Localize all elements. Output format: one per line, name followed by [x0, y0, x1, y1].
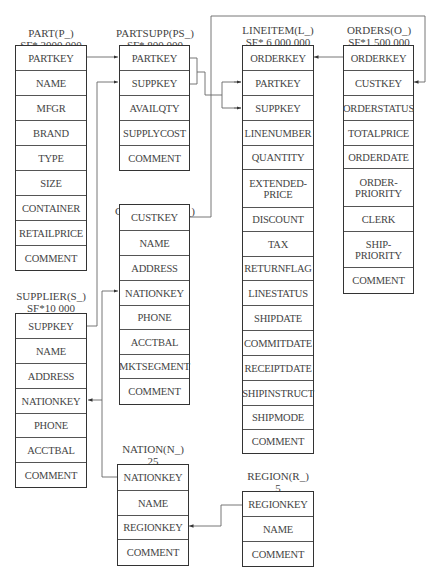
column-comment: COMMENT — [118, 540, 188, 565]
column-shipmode: SHIPMODE — [243, 406, 313, 430]
column-linenumber: LINENUMBER — [243, 121, 313, 146]
column-comment: COMMENT — [120, 379, 189, 404]
column-comment: COMMENT — [344, 268, 413, 293]
column-name: NAME — [243, 517, 313, 542]
column-custkey: CUSTKEY — [344, 71, 413, 96]
table-nation: NATIONKEY NAME REGIONKEY COMMENT — [117, 464, 189, 566]
column-comment: COMMENT — [16, 246, 86, 270]
table-supplier: SUPPKEY NAME ADDRESS NATIONKEY PHONE ACC… — [15, 313, 87, 488]
column-mfgr: MFGR — [16, 96, 86, 121]
column-availqty: AVAILQTY — [120, 96, 189, 121]
table-name: LINEITEM(L_) — [232, 24, 324, 36]
link-region-nation — [189, 505, 242, 526]
column-comment: COMMENT — [16, 463, 86, 487]
column-address: ADDRESS — [16, 364, 86, 389]
column-suppkey: SUPPKEY — [16, 314, 86, 339]
table-part: PARTKEY NAME MFGR BRAND TYPE SIZE CONTAI… — [15, 45, 87, 271]
column-acctbal: ACCTBAL — [16, 438, 86, 463]
column-partkey: PARTKEY — [120, 46, 189, 71]
column-shipdate: SHIPDATE — [243, 306, 313, 331]
column-regionkey: REGIONKEY — [243, 492, 313, 517]
column-quantity: QUANTITY — [243, 146, 313, 170]
column-name: NAME — [16, 71, 86, 96]
table-name: PART(P_) — [10, 27, 92, 39]
column-retailprice: RETAILPRICE — [16, 221, 86, 246]
column-orderkey: ORDERKEY — [344, 46, 413, 71]
column-receiptdate: RECEIPTDATE — [243, 356, 313, 381]
column-regionkey: REGIONKEY — [118, 516, 188, 540]
table-name: SUPPLIER(S_) — [8, 290, 94, 302]
table-name: REGION(R_) — [236, 470, 320, 482]
table-title-supplier: SUPPLIER(S_) SF*10 000 — [8, 290, 94, 314]
link-partsupp-lineitem — [190, 58, 241, 108]
column-totalprice: TOTALPRICE — [344, 121, 413, 146]
column-partkey: PARTKEY — [243, 71, 313, 96]
column-size: SIZE — [16, 171, 86, 196]
column-nationkey: NATIONKEY — [120, 281, 189, 306]
table-name: ORDERS(O_) — [336, 24, 422, 36]
column-linestatus: LINESTATUS — [243, 281, 313, 306]
column-supplycost: SUPPLYCOST — [120, 121, 189, 146]
column-extendedprice: EXTENDED- PRICE — [243, 170, 313, 208]
table-orders: ORDERKEY CUSTKEY ORDERSTATUS TOTALPRICE … — [343, 45, 414, 294]
column-comment: COMMENT — [243, 542, 313, 566]
column-orderdate: ORDERDATE — [344, 146, 413, 169]
column-shippriority: SHIP- PRIORITY — [344, 232, 413, 268]
column-suppkey: SUPPKEY — [120, 71, 189, 96]
column-comment: COMMENT — [120, 146, 189, 170]
column-acctbal: ACCTBAL — [120, 330, 189, 355]
column-address: ADDRESS — [120, 256, 189, 281]
column-shipinstruct: SHIPINSTRUCT — [243, 381, 313, 406]
column-custkey: CUSTKEY — [120, 205, 189, 231]
column-phone: PHONE — [16, 414, 86, 438]
column-partkey: PARTKEY — [16, 46, 86, 71]
column-name: NAME — [120, 231, 189, 256]
column-commitdate: COMMITDATE — [243, 331, 313, 356]
column-brand: BRAND — [16, 121, 86, 146]
column-orderstatus: ORDERSTATUS — [344, 96, 413, 121]
column-nationkey: NATIONKEY — [16, 389, 86, 414]
table-name: PARTSUPP(PS_) — [110, 27, 200, 39]
column-type: TYPE — [16, 146, 86, 171]
column-name: NAME — [16, 339, 86, 364]
column-container: CONTAINER — [16, 196, 86, 221]
column-suppkey: SUPPKEY — [243, 96, 313, 121]
column-clerk: CLERK — [344, 207, 413, 232]
column-orderkey: ORDERKEY — [243, 46, 313, 71]
column-tax: TAX — [243, 232, 313, 257]
column-comment: COMMENT — [243, 430, 313, 453]
column-returnflag: RETURNFLAG — [243, 257, 313, 281]
table-lineitem: ORDERKEY PARTKEY SUPPKEY LINENUMBER QUAN… — [242, 45, 314, 454]
column-phone: PHONE — [120, 306, 189, 330]
table-name: NATION(N_) — [110, 443, 196, 455]
column-orderpriority: ORDER- PRIORITY — [344, 169, 413, 207]
column-discount: DISCOUNT — [243, 208, 313, 232]
column-name: NAME — [118, 491, 188, 516]
table-region: REGIONKEY NAME COMMENT — [242, 491, 314, 567]
column-mktsegment: MKTSEGMENT — [120, 355, 189, 379]
table-partsupp: PARTKEY SUPPKEY AVAILQTY SUPPLYCOST COMM… — [119, 45, 190, 171]
table-customer: CUSTKEY NAME ADDRESS NATIONKEY PHONE ACC… — [119, 204, 190, 405]
column-nationkey: NATIONKEY — [118, 465, 188, 491]
